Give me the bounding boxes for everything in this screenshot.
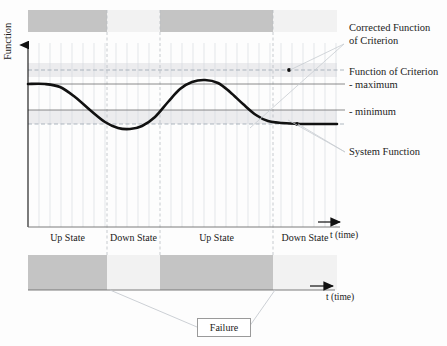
annotation-system-function: System Function xyxy=(349,146,420,159)
bottom-band-segment-down-1 xyxy=(107,255,160,290)
bottom-band-segment-down-2 xyxy=(273,255,337,290)
top-state-band xyxy=(28,10,337,32)
annotation-function-of-criterion-maximum: Function of Criterion - maximum xyxy=(349,66,438,91)
tolerance-bands xyxy=(28,63,337,124)
annotation-line-1: System Function xyxy=(349,146,420,159)
failure-pointer-right xyxy=(249,290,275,327)
annotation-line-1: - minimum xyxy=(349,106,396,119)
diagram-canvas: Function Corrected Function of Criterion… xyxy=(0,0,447,346)
annotation-line-1: Function of Criterion xyxy=(349,66,438,79)
failure-callout-box: Failure xyxy=(197,318,251,337)
annotation-leader-lines xyxy=(250,44,345,152)
y-axis-label: Function xyxy=(2,0,13,60)
annotation-line-1: Corrected Function xyxy=(349,22,430,35)
annotation-corrected-function-of-criterion: Corrected Function of Criterion xyxy=(349,22,430,47)
annotation-minimum: - minimum xyxy=(349,106,396,119)
failure-pointer-left xyxy=(110,290,197,327)
annotation-line-2: of Criterion xyxy=(349,35,430,48)
state-label-down-2: Down State xyxy=(273,232,337,243)
bottom-band-segment-up-2 xyxy=(160,255,273,290)
top-band-segment-down-1 xyxy=(107,10,160,32)
state-label-up-1: Up State xyxy=(28,232,107,243)
bottom-band-segment-up-1 xyxy=(28,255,107,290)
diagram-svg xyxy=(0,0,447,346)
annotation-line-2: - maximum xyxy=(349,79,438,92)
lower-time-axis-label: t (time) xyxy=(326,292,354,302)
top-band-segment-down-2 xyxy=(273,10,337,32)
top-band-segment-up-1 xyxy=(28,10,107,32)
state-label-up-2: Up State xyxy=(160,232,273,243)
top-band-segment-up-2 xyxy=(160,10,273,32)
state-label-down-1: Down State xyxy=(107,232,160,243)
bottom-state-band xyxy=(28,255,337,290)
